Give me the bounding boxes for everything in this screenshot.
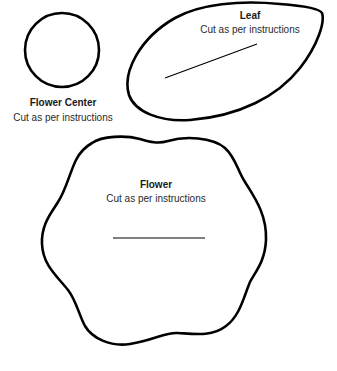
leaf-title: Leaf [200,10,300,21]
flower-center-outline [25,13,99,87]
flower-outline [42,137,266,345]
flower-subtitle: Cut as per instructions [86,193,226,204]
flower-center-title: Flower Center [0,97,126,108]
leaf-vein-line [165,44,257,78]
leaf-subtitle: Cut as per instructions [180,24,320,35]
flower-center-subtitle: Cut as per instructions [0,112,126,123]
flower-title: Flower [106,179,206,190]
